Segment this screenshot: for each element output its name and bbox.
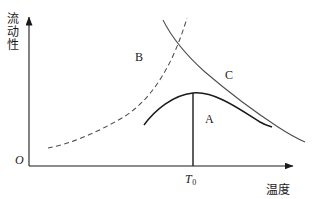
y-axis-label: 流 动 性 <box>3 13 23 52</box>
curve-c-path <box>163 20 305 142</box>
x-axis-label: 温度 <box>266 180 290 197</box>
tick-t-subscript: 0 <box>192 178 196 187</box>
curve-label-c: C <box>225 68 233 83</box>
y-axis-label-char-3: 性 <box>3 39 23 52</box>
curve-label-b: B <box>135 50 143 65</box>
flowability-temperature-chart: 流 动 性 温度 O T0 A B C <box>0 0 317 199</box>
x-tick-label-t0: T0 <box>185 172 196 187</box>
tick-t-symbol: T <box>185 172 192 186</box>
origin-label: O <box>15 153 24 168</box>
chart-canvas <box>0 0 317 199</box>
curve-label-a: A <box>205 112 214 127</box>
curve-b-path <box>48 18 187 148</box>
